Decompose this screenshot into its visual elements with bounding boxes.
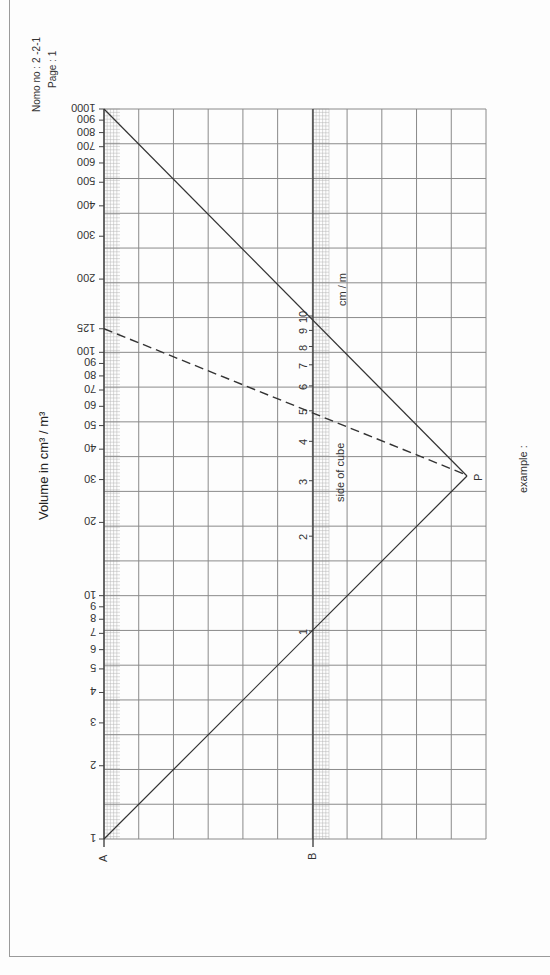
side-unit-label: cm / m xyxy=(336,273,348,306)
side-axis-label: side of cube xyxy=(334,443,346,502)
axis-a-tick-label: 3 xyxy=(90,716,96,728)
axis-a-tick-label: 400 xyxy=(77,199,95,211)
axis-a-tick-label: 70 xyxy=(84,383,96,395)
axis-a-tick-label: 1 xyxy=(90,832,96,844)
example-label: example : xyxy=(517,445,529,493)
axis-a-tick-label: 300 xyxy=(77,229,95,241)
axis-a-tick-label: 1000 xyxy=(71,102,95,114)
volume-axis-label: Volume in cm³ / m³ xyxy=(36,412,51,520)
page-number: Page : 1 xyxy=(47,51,58,88)
axis-a-tick-label: 8 xyxy=(90,612,96,624)
axis-a-tick-label: 20 xyxy=(84,515,96,527)
axis-a-tick-label: 800 xyxy=(77,126,95,138)
axis-b-tick-label: 2 xyxy=(297,534,309,540)
axis-a-letter: A xyxy=(97,855,109,862)
axis-a-tick-label: 7 xyxy=(90,626,96,638)
axis-a-tick-label: 200 xyxy=(77,272,95,284)
axis-b-tick-label: 5 xyxy=(297,409,309,415)
axis-a-tick-label: 900 xyxy=(77,113,95,125)
axis-a-tick-label: 10 xyxy=(84,589,96,601)
axis-a-tick-label: 40 xyxy=(84,442,96,454)
axis-b-tick-label: 3 xyxy=(297,479,309,485)
axis-a-tick-label: 50 xyxy=(84,419,96,431)
axis-b-tick-label: 1 xyxy=(297,629,309,635)
axis-a-tick-label: 90 xyxy=(84,356,96,368)
axis-a-tick-label: 30 xyxy=(84,473,96,485)
axis-b-tick-label: 7 xyxy=(297,363,309,369)
axis-b-tick-label: 10 xyxy=(297,311,309,323)
nomo-number: Nomo no : 2 -2-1 xyxy=(31,37,42,112)
axis-a-tick-label: 60 xyxy=(84,399,96,411)
axis-a-tick-label: 700 xyxy=(77,140,95,152)
axis-a-tick-label: 5 xyxy=(90,662,96,674)
axis-a-tick-label: 80 xyxy=(84,369,96,381)
axis-b-tick-label: 9 xyxy=(297,328,309,334)
axis-a-tick-label: 9 xyxy=(90,600,96,612)
axis-b-tick-label: 6 xyxy=(297,384,309,390)
axis-a-tick-label: 6 xyxy=(90,643,96,655)
axis-b-tick-label: 4 xyxy=(297,439,309,445)
axis-a-tick-label: 125 xyxy=(77,322,95,334)
axis-a-tick-label: 4 xyxy=(90,685,96,697)
axis-b-letter: B xyxy=(306,853,318,860)
pivot-label: P xyxy=(472,474,484,481)
axis-a-tick-label: 100 xyxy=(77,345,95,357)
axis-b-tick-label: 8 xyxy=(297,344,309,350)
axis-a-tick-label: 2 xyxy=(90,759,96,771)
axis-a-tick-label: 600 xyxy=(77,156,95,168)
axis-a-tick-label: 500 xyxy=(77,175,95,187)
